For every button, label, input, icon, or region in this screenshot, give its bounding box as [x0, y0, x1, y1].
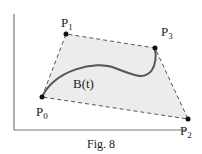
label-p1: P1: [61, 15, 73, 32]
label-p2: P2: [180, 123, 192, 140]
curve-label: B(t): [73, 76, 94, 91]
control-hull: [42, 34, 188, 119]
control-point-p0: [40, 95, 45, 100]
control-point-p3: [153, 46, 158, 51]
label-p0: P0: [36, 104, 48, 121]
bezier-diagram: P0 P1 P3 P2 B(t) Fig. 8: [0, 0, 202, 154]
control-point-p1: [64, 32, 69, 37]
label-p3: P3: [161, 24, 173, 41]
control-point-p2: [186, 117, 191, 122]
figure-caption: Fig. 8: [87, 137, 115, 151]
